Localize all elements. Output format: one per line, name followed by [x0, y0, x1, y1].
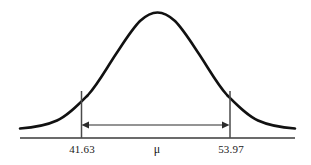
interval-arrow-head-left [82, 122, 90, 129]
mean-symbol-label: μ [154, 142, 160, 157]
bell-curve-figure: 41.63 μ 53.97 [0, 0, 311, 165]
lower-bound-label: 41.63 [69, 143, 95, 155]
bell-curve-path [20, 13, 295, 129]
interval-arrow-head-right [222, 122, 230, 129]
upper-bound-label: 53.97 [218, 143, 244, 155]
normal-distribution-chart [0, 0, 311, 165]
